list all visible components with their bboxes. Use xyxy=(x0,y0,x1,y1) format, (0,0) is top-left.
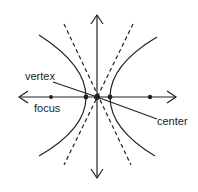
focus-right-point xyxy=(148,95,152,99)
center-point xyxy=(94,94,100,100)
center-label: center xyxy=(157,115,188,127)
focus-label: focus xyxy=(34,102,61,114)
vertex-right-point xyxy=(108,95,113,100)
hyperbola-diagram: vertex focus center xyxy=(0,0,198,192)
vertex-label: vertex xyxy=(25,70,55,82)
vertex-left-point xyxy=(84,95,89,100)
center-leader-line xyxy=(97,97,157,119)
vertex-leader-line xyxy=(53,82,97,97)
focus-left-point xyxy=(49,95,53,99)
hyperbola-left-branch xyxy=(39,35,86,156)
